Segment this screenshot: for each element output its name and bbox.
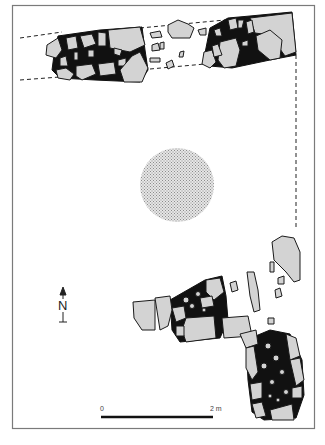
north-wall-east (202, 12, 296, 68)
north-wall-west (46, 27, 148, 82)
scale-bar-end-label: 2 m (210, 405, 222, 412)
north-wall-scatter (150, 20, 206, 69)
south-east-corner (240, 330, 304, 420)
scale-bar-start-label: 0 (100, 405, 104, 412)
east-scatter (230, 236, 300, 324)
north-arrow-label: N (58, 299, 67, 312)
central-pit (140, 148, 214, 222)
